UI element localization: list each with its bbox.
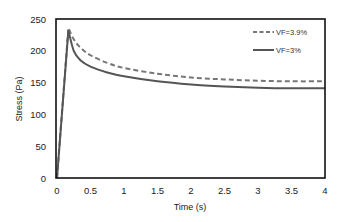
x-tick-label: 3.5 [285,185,298,196]
y-tick-label: 150 [30,77,46,88]
x-axis-title: Time (s) [174,202,207,212]
x-tick-label: 2.5 [218,185,231,196]
legend-label: VF=3% [276,46,301,55]
x-tick-label: 0.5 [84,185,97,196]
plot-frame [56,19,325,178]
x-tick-label: 1.5 [151,185,164,196]
x-tick-label: 3 [255,185,260,196]
x-tick-label: 2 [188,185,193,196]
x-tick-label: 4 [322,185,327,196]
y-tick-label: 50 [35,141,46,152]
y-tick-label: 0 [41,173,46,184]
y-tick-label: 250 [30,14,46,25]
y-axis-ticks: 050100150200250 [30,14,46,184]
legend: VF=3.9%VF=3% [253,28,307,55]
y-tick-label: 200 [30,45,46,56]
x-axis-ticks: 00.511.522.533.54 [54,185,327,196]
legend-label: VF=3.9% [276,28,307,37]
y-tick-label: 100 [30,109,46,120]
y-axis-title: Stress (Pa) [14,76,24,121]
x-tick-label: 1 [121,185,126,196]
x-tick-label: 0 [54,185,59,196]
stress-time-chart: 050100150200250 00.511.522.533.54 Time (… [0,0,344,222]
